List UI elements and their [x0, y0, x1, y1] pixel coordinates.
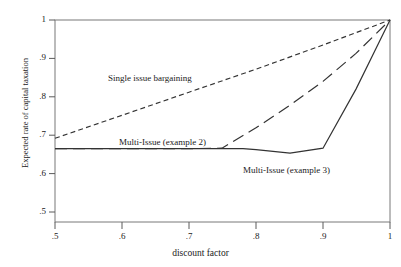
y-axis-label: Expected rate of capital taxation — [20, 28, 30, 198]
annotation-single-issue-bargaining: Single issue bargaining — [108, 73, 192, 83]
x-axis-ticks — [55, 222, 390, 229]
x-tick-label: .6 — [111, 231, 133, 241]
annotation-multi-issue-example-3: Multi-Issue (example 3) — [243, 165, 330, 175]
annotation-multi-issue-example-2: Multi-Issue (example 2) — [119, 137, 206, 147]
y-tick-label: .5 — [24, 206, 46, 216]
chart-figure: 1 .9 .8 .7 .6 .5 .5 .6 .7 .8 .9 1 Expect… — [0, 0, 401, 267]
plot-area — [0, 0, 401, 267]
x-tick-label: 1 — [379, 231, 401, 241]
x-tick-label: .9 — [312, 231, 334, 241]
x-tick-label: .5 — [44, 231, 66, 241]
y-tick-label: 1 — [24, 14, 46, 24]
y-axis-ticks — [49, 20, 55, 212]
x-axis-label: discount factor — [0, 248, 401, 258]
x-tick-label: .7 — [178, 231, 200, 241]
x-tick-label: .8 — [245, 231, 267, 241]
